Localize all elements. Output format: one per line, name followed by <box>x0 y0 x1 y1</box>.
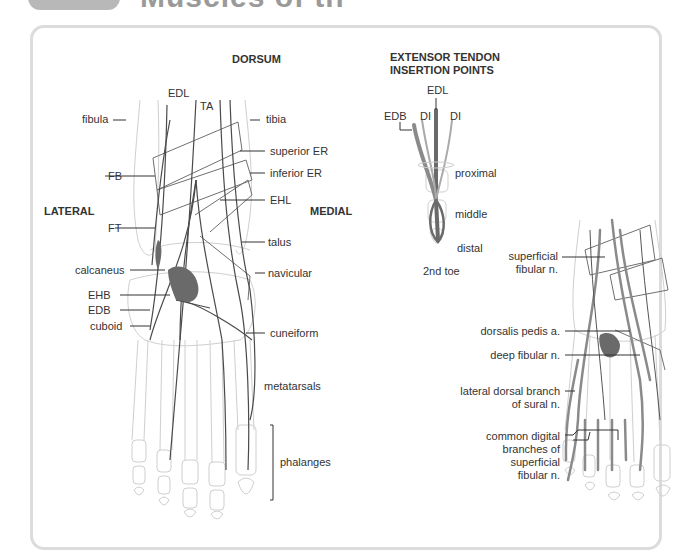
dorsum-heading: DORSUM <box>232 52 281 66</box>
label-inferior-er: inferior ER <box>270 167 322 180</box>
label-ehl: EHL <box>270 194 291 207</box>
label-middle: middle <box>455 208 487 221</box>
label-ft: FT <box>108 222 121 235</box>
label-2nd-toe: 2nd toe <box>423 265 460 278</box>
insertion-heading-line2: INSERTION POINTS <box>390 63 486 77</box>
tibialis-anterior-tendon <box>220 100 249 470</box>
label-tibia: tibia <box>266 113 286 126</box>
label-phalanges: phalanges <box>280 456 331 469</box>
label-metatarsals: metatarsals <box>264 380 321 393</box>
label-cuneiform: cuneiform <box>270 327 318 340</box>
label-calcaneus: calcaneus <box>75 264 125 277</box>
label-talus: talus <box>268 236 291 249</box>
label-di-left: DI <box>420 110 431 123</box>
label-navicular: navicular <box>268 267 312 280</box>
label-proximal: proximal <box>455 167 497 180</box>
label-superior-er: superior ER <box>270 145 328 158</box>
nerve-figure-muscle <box>599 333 620 357</box>
label-fibula: fibula <box>82 113 108 126</box>
lateral-label: LATERAL <box>44 204 95 218</box>
anatomy-illustration <box>0 0 700 560</box>
label-insertion-edb: EDB <box>384 110 407 123</box>
insertion-heading-line1: EXTENSOR TENDON <box>390 50 486 64</box>
medial-label: MEDIAL <box>310 204 352 218</box>
label-deep-fibular-n: deep fibular n. <box>450 349 560 362</box>
label-dorsalis-pedis-a: dorsalis pedis a. <box>450 325 560 338</box>
label-cuboid: cuboid <box>90 320 122 333</box>
inferior-extensor-retinaculum <box>195 180 252 232</box>
label-edb: EDB <box>88 304 111 317</box>
label-ta: TA <box>200 100 213 113</box>
edl-insertion-tendon <box>436 110 438 240</box>
label-edl: EDL <box>168 87 189 100</box>
label-lateral-dorsal-branch-sural-n: lateral dorsal branch of sural n. <box>430 385 560 411</box>
label-superficial-fibular-n: superficial fibular n. <box>470 250 558 276</box>
label-fb: FB <box>108 170 122 183</box>
label-di-right: DI <box>450 110 461 123</box>
label-insertion-edl: EDL <box>427 84 448 97</box>
label-common-digital-branches: common digital branches of superficial f… <box>450 430 560 482</box>
label-ehb: EHB <box>88 289 111 302</box>
